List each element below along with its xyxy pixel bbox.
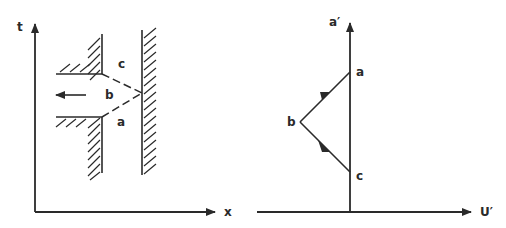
left-wall-lower [88, 117, 102, 180]
t-axis-label: t [17, 20, 23, 34]
channel-wall-top [56, 64, 102, 74]
x-axis-label: x [224, 205, 232, 219]
region-label-a: a [117, 115, 125, 129]
direction-arrow-a-to-b-icon [320, 92, 330, 100]
region-label-b: b [105, 88, 114, 102]
u-prime-axis-label: U′ [480, 205, 493, 219]
right-panel-state-diagram: a′ U′ a b c [257, 15, 493, 219]
diagram-canvas: t x c b [0, 0, 506, 228]
left-panel-xt-diagram: t x c b [17, 20, 232, 219]
a-prime-axis-label: a′ [329, 15, 340, 29]
point-label-a: a [356, 65, 364, 79]
region-label-c: c [118, 57, 125, 71]
point-label-b: b [287, 115, 296, 129]
point-label-c: c [356, 169, 363, 183]
right-wall [142, 28, 156, 175]
left-wall-upper [88, 34, 102, 80]
